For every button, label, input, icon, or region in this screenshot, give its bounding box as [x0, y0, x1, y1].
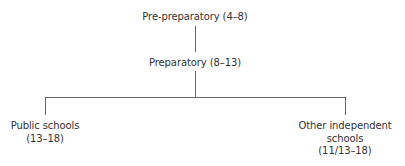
node-label-line: schools: [298, 133, 391, 146]
connector-to-public-schools: [45, 97, 46, 115]
connector-horizontal-bar: [45, 97, 346, 98]
connector-preparatory-stem: [195, 71, 196, 98]
connector-root-to-preparatory: [195, 26, 196, 52]
connector-to-other-independent: [345, 97, 346, 115]
node-label-line: (13–18): [11, 133, 80, 146]
node-pre-preparatory: Pre-preparatory (4–8): [142, 11, 247, 24]
node-public-schools: Public schools (13–18): [11, 120, 80, 145]
node-other-independent-schools: Other independent schools (11/13–18): [298, 120, 391, 158]
node-label-line: (11/13–18): [298, 145, 391, 158]
node-label-line: Other independent: [298, 120, 391, 133]
node-label-line: Public schools: [11, 120, 80, 133]
node-label: Preparatory (8–13): [149, 57, 241, 70]
node-label: Pre-preparatory (4–8): [142, 11, 247, 24]
node-preparatory: Preparatory (8–13): [149, 57, 241, 70]
